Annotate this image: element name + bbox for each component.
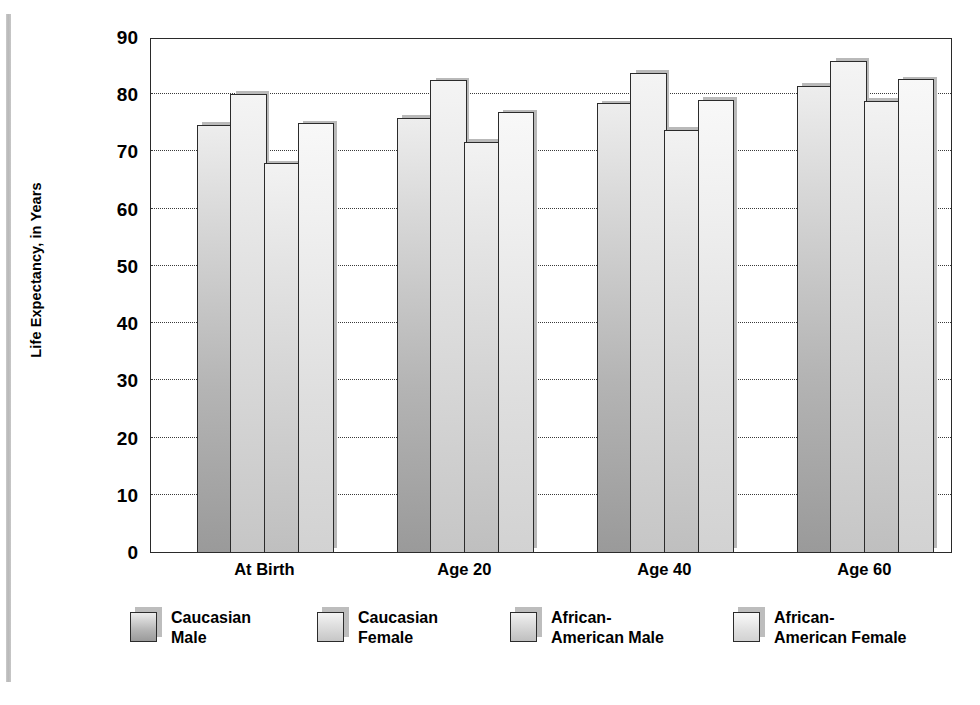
plot-area [150,38,952,553]
legend-swatch [317,612,344,642]
legend-label: African- American Male [551,608,664,649]
bar[interactable] [232,95,266,552]
legend-swatch-wrap [130,612,162,646]
legend-label: African- American Female [774,608,907,649]
bar-face [264,163,300,553]
bar-group-1 [198,39,333,552]
bar-face [830,61,866,553]
y-tick-label-80: 80 [0,85,138,104]
bar[interactable] [465,143,499,552]
y-tick-label-10: 10 [0,486,138,505]
x-tick-label-1: At Birth [157,560,372,579]
legend-item-4[interactable]: African- American Female [733,608,907,649]
legend-swatch-wrap [510,612,542,646]
bar-group-3 [598,39,733,552]
bar[interactable] [265,165,299,552]
legend-item-3[interactable]: African- American Male [510,608,664,649]
legend-swatch [510,612,537,642]
x-axis-tick-labels: At BirthAge 20Age 40Age 60 [150,560,952,588]
y-tick-label-60: 60 [0,200,138,219]
bar[interactable] [432,82,466,552]
bar-face [797,86,833,553]
chart-legend: Caucasian MaleCaucasian FemaleAfrican- A… [130,608,970,678]
bar-face [864,101,900,553]
bar[interactable] [598,105,632,552]
y-tick-label-50: 50 [0,257,138,276]
bar-face [430,80,466,553]
y-axis-tick-labels: 9080706050403020100 [0,0,138,705]
bar-face [498,112,534,553]
bar-group-2 [398,39,533,552]
bar[interactable] [499,114,533,552]
y-tick-label-20: 20 [0,429,138,448]
bar[interactable] [832,62,866,552]
bar-face [230,94,266,554]
legend-swatch-wrap [317,612,349,646]
legend-label: Caucasian Female [358,608,438,649]
bar[interactable] [798,87,832,552]
bar-face [298,123,334,553]
bar[interactable] [665,131,699,552]
bar[interactable] [699,101,733,552]
legend-swatch [733,612,760,642]
legend-item-2[interactable]: Caucasian Female [317,608,438,649]
bar[interactable] [299,125,333,552]
bar-face [664,130,700,554]
legend-label: Caucasian Male [171,608,251,649]
bar[interactable] [632,74,666,552]
bar-face [698,100,734,554]
y-tick-label-40: 40 [0,314,138,333]
x-tick-label-4: Age 60 [757,560,972,579]
x-tick-label-3: Age 40 [557,560,772,579]
bar[interactable] [899,81,933,553]
y-tick-label-0: 0 [0,543,138,562]
bar-group-4 [798,39,933,552]
bar[interactable] [198,126,232,552]
bar-face [597,103,633,553]
bar-face [397,118,433,554]
bar-face [898,79,934,553]
bar[interactable] [865,102,899,552]
y-tick-label-90: 90 [0,28,138,47]
bar[interactable] [398,119,432,552]
y-tick-label-30: 30 [0,371,138,390]
legend-swatch-wrap [733,612,765,646]
y-tick-label-70: 70 [0,142,138,161]
x-tick-label-2: Age 20 [357,560,572,579]
bar-face [464,142,500,553]
bar-face [630,73,666,553]
legend-item-1[interactable]: Caucasian Male [130,608,251,649]
bar-face [197,125,233,553]
legend-swatch [130,612,157,642]
bar-chart-figure: Life Expectancy, in Years 90807060504030… [0,0,980,705]
